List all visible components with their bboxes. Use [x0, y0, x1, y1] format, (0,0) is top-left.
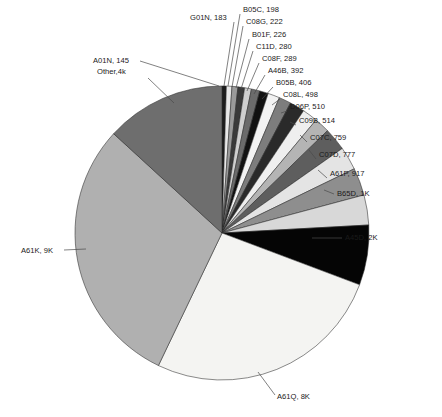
- slice-label-c11d-leader: [241, 51, 253, 89]
- slice-label-g01n: G01N, 183: [190, 13, 227, 22]
- slice-label-other: Other,4k: [97, 67, 126, 76]
- slice-label-c08g: C08G, 222: [246, 17, 283, 26]
- slice-label-b01f-leader: [236, 39, 249, 88]
- slice-label-c08g-leader: [232, 26, 243, 87]
- slice-label-a61q: A61Q, 8K: [277, 392, 310, 401]
- slice-label-b05b: B05B, 406: [276, 78, 311, 87]
- slice-label-a01n: A01N, 145: [93, 56, 129, 65]
- slice-label-a61q-leader: [258, 372, 275, 395]
- slice-label-c08f-leader: [247, 63, 259, 91]
- slice-label-b05c: B05C, 198: [243, 5, 279, 14]
- slice-label-c11d: C11D, 280: [256, 42, 292, 51]
- slice-label-c07c: C07C, 759: [310, 133, 346, 142]
- pie-chart-figure: B05C, 198C08G, 222G01N, 183B01F, 226C11D…: [0, 0, 442, 417]
- slice-label-a01n-leader: [140, 61, 219, 86]
- slice-label-c09b: C09B, 514: [299, 116, 335, 125]
- slice-label-c08f: C08F, 289: [262, 54, 297, 63]
- slice-label-b65d: B65D, 1K: [337, 189, 370, 198]
- slice-label-c08l: C08L, 498: [283, 90, 318, 99]
- slice-label-d06p: D06P, 510: [290, 102, 325, 111]
- pie-slices-group: [75, 86, 369, 380]
- slice-label-a61k: A61K, 9K: [21, 246, 53, 255]
- slice-label-g01n-leader: [224, 22, 234, 86]
- slice-label-b01f: B01F, 226: [252, 30, 286, 39]
- slice-label-a46b: A46B, 392: [268, 66, 303, 75]
- slice-label-a61p: A61P, 917: [330, 169, 365, 178]
- pie-chart-svg: B05C, 198C08G, 222G01N, 183B01F, 226C11D…: [0, 0, 442, 417]
- slice-label-a45d: A45D, 2K: [345, 233, 378, 242]
- slice-label-c07d: C07D, 777: [319, 150, 355, 159]
